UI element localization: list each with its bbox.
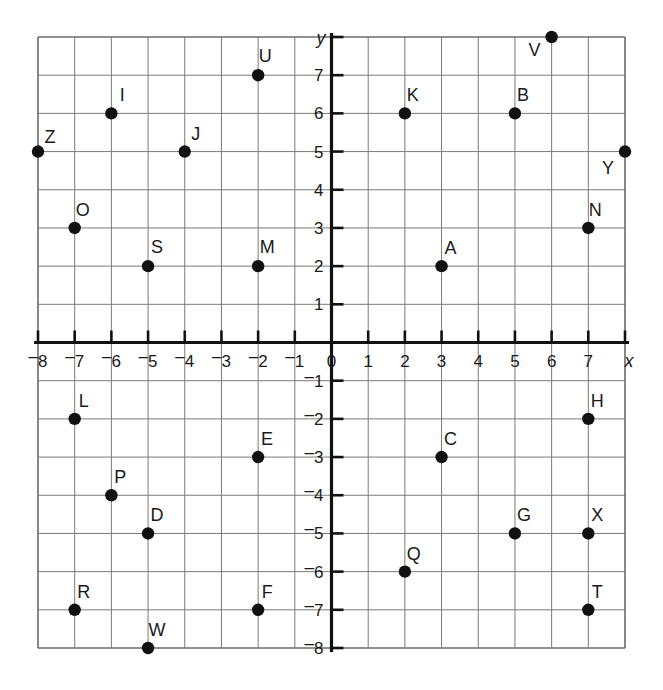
point-label: E [261, 429, 273, 449]
point-label: G [517, 505, 531, 525]
point-dot [252, 260, 264, 272]
plotted-point: N [582, 200, 602, 234]
point-dot [142, 642, 154, 654]
plotted-point: O [68, 200, 89, 234]
point-label: W [149, 620, 166, 640]
point-label: X [591, 505, 603, 525]
point-label: A [445, 238, 457, 258]
x-tick-label: 1 [363, 352, 372, 371]
point-label: D [151, 505, 164, 525]
point-label: P [114, 467, 126, 487]
point-label: V [529, 40, 541, 60]
point-dot [582, 527, 594, 539]
plotted-point: A [435, 238, 456, 272]
point-label: F [262, 582, 273, 602]
plotted-point: Q [399, 544, 421, 578]
coordinate-plane: –8–7–6–5–4–3–2–101234567 7654321–1–2–3–4… [0, 0, 663, 690]
plotted-point: I [105, 85, 125, 119]
x-tick-label: 4 [474, 352, 483, 371]
plotted-point: L [68, 391, 88, 425]
plotted-point: X [582, 505, 603, 539]
plotted-point: J [179, 124, 201, 158]
point-label: H [591, 391, 604, 411]
point-dot [399, 107, 411, 119]
coordinate-plane-canvas: –8–7–6–5–4–3–2–101234567 7654321–1–2–3–4… [0, 0, 663, 690]
point-dot [545, 31, 557, 43]
x-tick-label: 6 [547, 352, 556, 371]
point-dot [435, 260, 447, 272]
plotted-point: F [252, 582, 273, 616]
point-label: S [151, 237, 163, 257]
y-tick-label: –5 [305, 519, 324, 543]
plotted-point: W [142, 620, 166, 654]
point-dot [509, 527, 521, 539]
point-dot [435, 451, 447, 463]
y-tick-label: –8 [305, 634, 324, 658]
y-tick-label: –3 [305, 443, 324, 467]
point-label: K [407, 85, 419, 105]
x-tick-label: 5 [510, 352, 519, 371]
point-label: Y [602, 158, 614, 178]
point-label: T [592, 582, 603, 602]
plotted-point: Y [602, 145, 631, 177]
y-tick-label: 5 [314, 143, 323, 162]
x-axis-name: x [624, 351, 635, 371]
plotted-point: E [252, 429, 273, 463]
plotted-point: Z [32, 127, 56, 158]
point-dot [399, 565, 411, 577]
point-label: U [259, 46, 272, 66]
y-tick-label: 3 [314, 219, 323, 238]
plotted-point: K [399, 85, 419, 119]
point-dot [105, 489, 117, 501]
plotted-point: H [582, 391, 604, 425]
x-tick-label: 0 [327, 352, 336, 371]
point-dot [582, 604, 594, 616]
point-label: C [444, 429, 457, 449]
point-dot [509, 107, 521, 119]
plotted-point: S [142, 237, 163, 272]
point-dot [142, 260, 154, 272]
plotted-point: R [68, 582, 90, 616]
point-label: J [191, 124, 200, 144]
axis-name-labels: yx [315, 28, 635, 371]
point-label: B [517, 85, 529, 105]
point-dot [582, 413, 594, 425]
point-dot [68, 413, 80, 425]
x-tick-label: 2 [400, 352, 409, 371]
plotted-point: M [252, 237, 275, 272]
y-tick-label: –7 [305, 596, 324, 620]
plotted-point: D [142, 505, 164, 539]
point-label: N [589, 200, 602, 220]
y-tick-label: 7 [314, 66, 323, 85]
point-dot [68, 604, 80, 616]
plotted-point: P [105, 467, 126, 501]
point-label: L [79, 391, 89, 411]
plotted-point: B [509, 85, 529, 119]
point-label: Z [45, 127, 56, 147]
x-tick-label: 3 [437, 352, 446, 371]
point-dot [142, 527, 154, 539]
y-tick-label: 1 [314, 295, 323, 314]
axes [34, 33, 629, 652]
point-dot [105, 107, 117, 119]
point-label: M [260, 237, 275, 257]
y-tick-label: –4 [305, 481, 324, 505]
point-dot [179, 145, 191, 157]
y-tick-label: –6 [305, 558, 324, 582]
point-dot [32, 145, 44, 157]
point-dot [252, 604, 264, 616]
y-axis-name: y [315, 28, 327, 48]
plotted-point: G [509, 505, 531, 539]
point-dot [68, 222, 80, 234]
y-tick-label: –1 [305, 367, 324, 391]
plotted-point: U [252, 46, 272, 81]
y-tick-label: 6 [314, 104, 323, 123]
point-label: I [120, 85, 125, 105]
plotted-point: T [582, 582, 603, 616]
y-axis-tick-labels: 7654321–1–2–3–4–5–6–7–8 [305, 66, 324, 658]
point-dot [252, 69, 264, 81]
plotted-point: C [435, 429, 457, 463]
x-tick-label: 7 [584, 352, 593, 371]
point-dot [582, 222, 594, 234]
y-tick-label: –2 [305, 405, 324, 429]
